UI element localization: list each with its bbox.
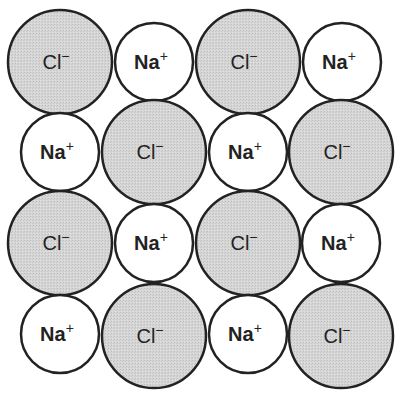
ions-layer: Cl−Na+Cl−Na+Na+Cl−Na+Cl−Cl−Na+Cl−Na+Na+C… [8,10,393,388]
sodium-ion: Na+ [115,204,193,282]
ion-symbol: Na [228,323,254,345]
ion-charge: − [249,48,257,64]
ion-charge: + [254,138,262,154]
sodium-ion: Na+ [209,113,287,191]
ion-charge: + [160,48,168,64]
ion-charge: − [61,229,69,245]
ion-charge: − [249,229,257,245]
ion-symbol: Cl [42,51,61,73]
ion-charge: + [347,229,355,245]
ion-charge: − [61,48,69,64]
chloride-ion: Cl− [196,10,300,114]
ion-charge: + [160,229,168,245]
ion-charge: − [342,138,350,154]
sodium-ion: Na+ [209,295,287,373]
lattice-svg: Cl−Na+Cl−Na+Na+Cl−Na+Cl−Cl−Na+Cl−Na+Na+C… [0,0,412,406]
chloride-ion: Cl− [102,100,206,204]
chloride-ion: Cl− [8,10,112,114]
ion-symbol: Cl [323,325,342,347]
ion-symbol: Na [134,232,160,254]
chloride-ion: Cl− [289,100,393,204]
chloride-ion: Cl− [102,284,206,388]
ion-charge: − [155,322,163,338]
nacl-lattice-diagram: Cl−Na+Cl−Na+Na+Cl−Na+Cl−Cl−Na+Cl−Na+Na+C… [0,0,412,406]
ion-symbol: Cl [136,141,155,163]
ion-symbol: Cl [230,232,249,254]
ion-symbol: Na [321,232,347,254]
ion-symbol: Na [322,51,348,73]
ion-symbol: Na [134,51,160,73]
ion-symbol: Cl [323,141,342,163]
ion-charge: + [66,320,74,336]
ion-symbol: Cl [136,325,155,347]
ion-charge: − [342,322,350,338]
sodium-ion: Na+ [303,23,381,101]
sodium-ion: Na+ [21,113,99,191]
chloride-ion: Cl− [289,284,393,388]
ion-symbol: Cl [230,51,249,73]
ion-symbol: Na [228,141,254,163]
ion-charge: + [348,48,356,64]
ion-charge: − [155,138,163,154]
ion-charge: + [66,138,74,154]
ion-symbol: Na [40,323,66,345]
chloride-ion: Cl− [8,191,112,295]
ion-symbol: Cl [42,232,61,254]
sodium-ion: Na+ [302,204,380,282]
ion-charge: + [254,320,262,336]
sodium-ion: Na+ [115,23,193,101]
chloride-ion: Cl− [196,191,300,295]
ion-symbol: Na [40,141,66,163]
sodium-ion: Na+ [21,295,99,373]
